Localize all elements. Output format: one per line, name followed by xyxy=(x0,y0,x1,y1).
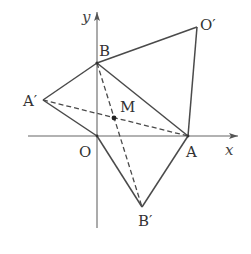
x-axis-label: x xyxy=(225,141,234,159)
label-B: B xyxy=(99,42,110,60)
label-A: A xyxy=(185,143,197,161)
point-O-dot xyxy=(96,135,99,138)
y-axis-label: y xyxy=(81,8,91,26)
segment-B-Oprime xyxy=(97,27,197,63)
dashed-B-Bprime xyxy=(97,63,142,207)
segment-Aprime-B xyxy=(43,63,97,100)
label-Oprime: O′ xyxy=(200,16,216,34)
segment-Oprime-A xyxy=(188,27,197,136)
label-M: M xyxy=(120,98,135,116)
point-A-dot xyxy=(187,135,190,138)
label-Aprime: A′ xyxy=(22,92,38,110)
geometry-diagram: y x B O′ A′ M O A B′ xyxy=(0,0,251,254)
segment-Bprime-A xyxy=(142,136,188,207)
segment-Aprime-O xyxy=(43,100,97,136)
segment-O-Bprime xyxy=(97,136,142,207)
segment-B-A xyxy=(97,63,188,136)
label-O: O xyxy=(79,143,91,161)
point-M-dot xyxy=(112,116,117,121)
point-B-dot xyxy=(95,61,98,64)
label-Bprime: B′ xyxy=(138,212,153,230)
